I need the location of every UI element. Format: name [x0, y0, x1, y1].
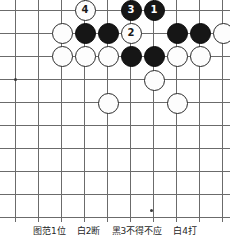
black-stone-r3c6[interactable]	[144, 46, 165, 67]
white-stone-4[interactable]: 4	[75, 0, 96, 21]
black-stone-r3c5[interactable]	[121, 46, 142, 67]
white-stone-r3c2[interactable]	[52, 46, 73, 67]
black-stone-r2c3[interactable]	[75, 23, 96, 44]
go-board-figure: 4312 图范1位 白2断 黑3不得不应 白4打	[0, 0, 230, 235]
black-stone-r2c4[interactable]	[98, 23, 119, 44]
white-stone-r2c9[interactable]	[213, 23, 231, 44]
caption-part-1: 图范1位	[33, 226, 66, 235]
stone-number-label: 4	[82, 5, 89, 15]
white-stone-2[interactable]: 2	[121, 23, 142, 44]
white-stone-r5c4[interactable]	[98, 93, 119, 114]
caption-part-4: 白4打	[173, 226, 197, 235]
black-stone-1[interactable]: 1	[144, 0, 165, 21]
white-stone-r3c3[interactable]	[75, 46, 96, 67]
white-stone-r5c7[interactable]	[167, 93, 188, 114]
white-stone-r3c8[interactable]	[190, 46, 211, 67]
white-stone-r2c2[interactable]	[52, 23, 73, 44]
figure-caption: 图范1位 白2断 黑3不得不应 白4打	[0, 226, 230, 235]
stone-number-label: 3	[128, 5, 135, 15]
black-stone-r2c8[interactable]	[190, 23, 211, 44]
stone-number-label: 1	[151, 5, 158, 15]
stone-layer: 4312	[0, 0, 230, 235]
stone-number-label: 2	[128, 28, 135, 38]
white-stone-r3c4[interactable]	[98, 46, 119, 67]
black-stone-3[interactable]: 3	[121, 0, 142, 21]
caption-part-2: 白2断	[77, 226, 101, 235]
caption-part-3: 黑3不得不应	[112, 226, 163, 235]
white-stone-r4c6[interactable]	[144, 70, 165, 91]
black-stone-r2c7[interactable]	[167, 23, 188, 44]
white-stone-r3c7[interactable]	[167, 46, 188, 67]
